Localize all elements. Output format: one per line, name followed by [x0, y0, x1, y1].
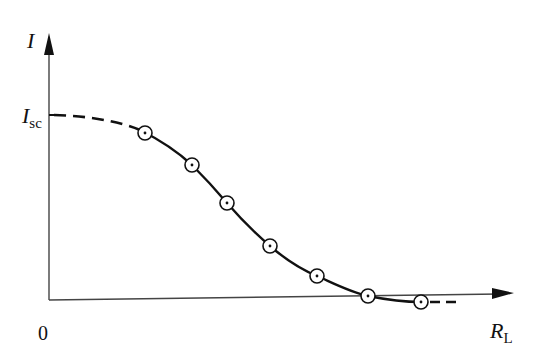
dashed-extrapolation-start [54, 115, 140, 130]
y-axis-label: I [27, 28, 34, 54]
x-axis-label-main: R [490, 318, 503, 343]
x-axis-arrow-icon [492, 288, 514, 299]
origin-label: 0 [38, 322, 48, 345]
isc-label-sub: sc [29, 115, 42, 131]
data-points [138, 126, 428, 309]
x-axis-label: RL [490, 318, 513, 344]
data-point-marker-icon [263, 239, 277, 253]
x-axis [49, 294, 500, 300]
iv-characteristic-diagram [0, 0, 537, 362]
x-axis-label-sub: L [503, 330, 512, 346]
data-point-marker-icon [310, 269, 324, 283]
data-point-marker-icon [414, 295, 428, 309]
measured-curve [140, 130, 421, 302]
data-point-marker-icon [185, 158, 199, 172]
isc-label: Isc [22, 103, 42, 129]
y-axis-arrow-icon [44, 33, 54, 55]
data-point-marker-icon [361, 289, 375, 303]
data-point-marker-icon [138, 126, 152, 140]
data-point-marker-icon [220, 196, 234, 210]
